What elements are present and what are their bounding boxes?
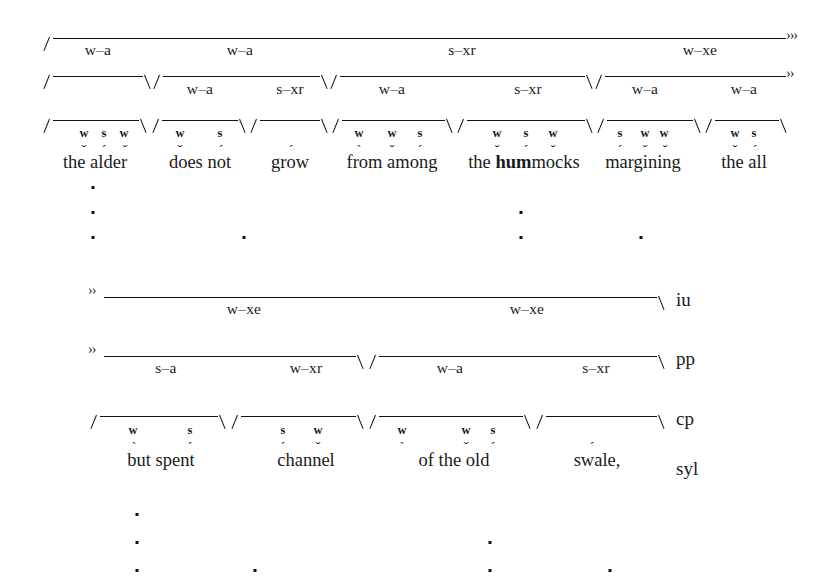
bracket-left-leg [598,76,607,90]
strength-mark: s [752,126,757,141]
node-label: w–a [379,80,405,98]
continuation-marker: ›› [88,342,95,358]
strength-mark: s [618,126,623,141]
bracket-right-leg [443,120,452,134]
bracket-left-leg [46,120,55,134]
bracket-bar [605,76,786,77]
bracket-bar [104,356,356,357]
node-label: s–xr [448,41,476,59]
bracket-right-leg [141,76,150,90]
bracket-right-leg [318,120,327,134]
bracket-bar [379,356,657,357]
bracket-right-leg [691,120,700,134]
strength-mark: s [102,126,107,141]
metrical-grid-dot [243,236,246,239]
node-label: w–xr [290,359,323,377]
metrical-grid-dot [254,569,257,572]
bracket-left-leg [539,416,548,430]
strength-mark: s [281,423,286,438]
bracket-cp [708,120,786,134]
bracket-iu [104,297,664,311]
bracket-left-leg [253,120,262,134]
text-word: of the old [419,450,490,471]
strength-mark: s [418,126,423,141]
bracket-left-leg [155,120,164,134]
bracket-bar [260,120,320,121]
strength-mark: s [188,423,193,438]
strength-mark: w [659,126,668,141]
node-label: w–a [437,359,463,377]
tier-name-cp: cp [676,408,694,430]
metrical-grid-dot [520,211,523,214]
bracket-left-leg [333,76,342,90]
bracket-bar [467,120,585,121]
bracket-cp [539,416,664,430]
bracket-cp [234,416,363,430]
continuation-marker: ›› [786,66,793,82]
strength-mark: w [313,423,322,438]
bracket-left-leg [708,120,717,134]
text-word: from among [347,152,438,173]
strength-mark: w [492,126,501,141]
bracket-bar [163,76,320,77]
bracket-left-leg [372,356,381,370]
tier-name-pp: pp [676,348,695,370]
bracket-bar [241,416,356,417]
metrical-tree-figure: w–aw–as–xrw–xew–as–xrw–as–xrw–aw–awswwsw… [0,0,822,588]
strength-mark: w [79,126,88,141]
bracket-bar [162,120,238,121]
bracket-bar [607,120,693,121]
bracket-right-leg [583,76,592,90]
bracket-pp [372,356,664,370]
bracket-pp [104,356,363,370]
node-label: w–a [187,80,213,98]
strength-mark: s [524,126,529,141]
tier-name-iu: iu [676,289,691,311]
bracket-bar [340,76,585,77]
bracket-cp [155,120,245,134]
bracket-bar [715,120,779,121]
bracket-bar [104,297,657,298]
node-label: w–a [632,80,658,98]
strength-mark: s [491,423,496,438]
bracket-left-leg [46,76,55,90]
text-word: swale, [574,450,621,471]
metrical-grid-dot [136,513,139,516]
text-word: margining [605,152,681,173]
bracket-right-leg [216,416,225,430]
stress-accent-mark: ` [400,440,405,455]
metrical-grid-dot [92,211,95,214]
bracket-bar [53,120,139,121]
bracket-left-leg [372,416,381,430]
node-label: w–a [85,41,111,59]
strength-mark: w [640,126,649,141]
metrical-grid-dot [92,236,95,239]
bracket-left-leg [460,120,469,134]
text-word: the hummocks [468,152,580,173]
metrical-grid-dot [92,186,95,189]
bracket-bar [379,416,523,417]
tier-name-syl: syl [676,458,698,480]
strength-mark: w [354,126,363,141]
bracket-right-leg [354,416,363,430]
metrical-grid-dot [489,541,492,544]
bracket-cp [253,120,327,134]
bracket-right-leg [354,356,363,370]
bracket-right-leg [521,416,530,430]
bracket-cp [372,416,530,430]
bracket-right-leg [655,416,664,430]
bracket-pp [46,76,150,90]
text-word: the all [721,152,767,173]
text-word: does not [169,152,231,173]
continuation-marker: ››› [786,28,797,44]
node-label: w–xe [510,300,544,318]
node-label: s–xr [514,80,542,98]
bracket-left-leg [93,416,102,430]
metrical-grid-dot [136,569,139,572]
metrical-grid-dot [640,236,643,239]
metrical-grid-dot [489,569,492,572]
strength-mark: w [548,126,557,141]
bracket-right-leg [318,76,327,90]
bracket-cp [93,416,225,430]
bracket-left-leg [46,38,55,52]
